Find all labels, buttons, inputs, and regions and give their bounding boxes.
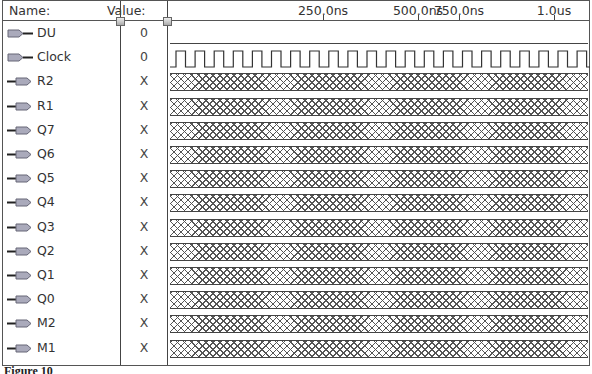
figure-caption: Figure 10 [4,364,53,374]
signal-name: R2 [37,73,54,88]
unknown-value-hatch [170,194,588,212]
output-pin-icon [7,294,33,305]
time-tick-mark [459,15,460,20]
signal-name: Q4 [37,194,55,209]
unknown-value-hatch [170,146,588,164]
signal-waveform[interactable] [170,337,588,361]
signal-value: X [121,291,167,306]
unknown-value-hatch [170,170,588,188]
signal-waveform[interactable] [170,143,588,167]
unknown-value-hatch [170,315,588,333]
signal-row[interactable]: Q5X [3,167,589,191]
signal-row[interactable]: Q4X [3,191,589,215]
signal-name: DU [37,25,56,40]
signal-row[interactable]: Q2X [3,240,589,264]
signal-value: X [121,267,167,282]
signal-row[interactable]: Q1X [3,264,589,288]
value-column-header: Value: [107,3,146,18]
signal-waveform[interactable] [170,46,588,70]
output-pin-icon [7,270,33,281]
input-pin-icon [7,28,33,39]
output-pin-icon [7,125,33,136]
signal-name: Clock [37,49,71,64]
signal-name: M1 [37,340,56,355]
column-header: Name: Value: 250.0ns 500.0ns 750.0ns 1.0… [3,1,589,21]
signal-name: R1 [37,98,54,113]
signal-value: X [121,219,167,234]
signal-value: 0 [121,25,167,40]
signal-name: Q5 [37,170,55,185]
waveform-viewer: Name: Value: 250.0ns 500.0ns 750.0ns 1.0… [2,0,590,366]
output-pin-icon [7,246,33,257]
signal-row[interactable]: DU0 [3,22,589,46]
output-pin-icon [7,101,33,112]
signal-row[interactable]: R1X [3,95,589,119]
signal-row[interactable]: Clock0 [3,46,589,70]
output-pin-icon [7,318,33,329]
signal-waveform[interactable] [170,191,588,215]
time-tick-mark [554,15,555,20]
output-pin-icon [7,197,33,208]
signal-value: X [121,340,167,355]
time-tick-mark [418,15,419,20]
signal-value: X [121,315,167,330]
signal-waveform[interactable] [170,167,588,191]
signal-value: X [121,122,167,137]
output-pin-icon [7,222,33,233]
signal-waveform[interactable] [170,312,588,336]
signal-name: Q1 [37,267,55,282]
signal-value: X [121,194,167,209]
signal-waveform[interactable] [170,240,588,264]
signal-name: Q3 [37,219,55,234]
signal-waveform[interactable] [170,22,588,46]
signal-waveform[interactable] [170,119,588,143]
signal-row[interactable]: R2X [3,70,589,94]
signal-row[interactable]: Q6X [3,143,589,167]
signal-name: Q0 [37,291,55,306]
signal-row[interactable]: M1X [3,337,589,361]
unknown-value-hatch [170,291,588,309]
unknown-value-hatch [170,243,588,261]
signal-row[interactable]: Q0X [3,288,589,312]
signal-value: 0 [121,49,167,64]
signal-waveform[interactable] [170,95,588,119]
output-pin-icon [7,76,33,87]
signal-value: X [121,146,167,161]
clock-trace [170,46,590,70]
signal-waveform[interactable] [170,288,588,312]
signal-waveform[interactable] [170,264,588,288]
signal-value: X [121,243,167,258]
unknown-value-hatch [170,73,588,91]
name-column-header: Name: [9,3,50,18]
output-pin-icon [7,149,33,160]
signal-waveform[interactable] [170,216,588,240]
logic-low-trace [170,43,588,44]
time-tick-mark [323,15,324,20]
output-pin-icon [7,173,33,184]
input-pin-icon [7,52,33,63]
unknown-value-hatch [170,340,588,358]
signal-value: X [121,73,167,88]
output-pin-icon [7,343,33,354]
signal-value: X [121,170,167,185]
signal-value: X [121,98,167,113]
signal-name: Q6 [37,146,55,161]
unknown-value-hatch [170,267,588,285]
signal-row[interactable]: Q3X [3,216,589,240]
signal-name: M2 [37,315,56,330]
unknown-value-hatch [170,122,588,140]
unknown-value-hatch [170,219,588,237]
signal-row[interactable]: M2X [3,312,589,336]
unknown-value-hatch [170,98,588,116]
signal-waveform[interactable] [170,70,588,94]
signal-row[interactable]: Q7X [3,119,589,143]
signal-name: Q2 [37,243,55,258]
signal-name: Q7 [37,122,55,137]
